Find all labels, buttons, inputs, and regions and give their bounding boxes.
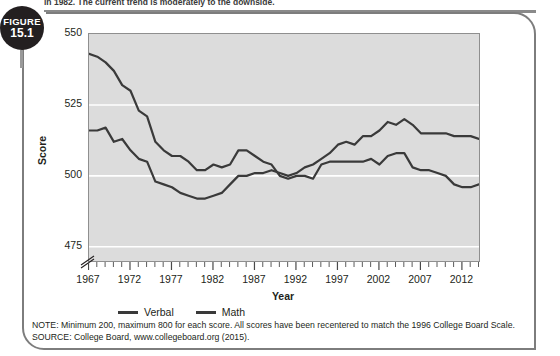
x-axis-tick-label: 1987 [234,273,274,285]
chart-legend: Verbal Math [118,306,245,318]
legend-swatch-math [196,311,216,314]
x-axis-tick-label: 2007 [400,273,440,285]
truncated-body-text: in 1982. The current trend is moderately… [44,0,384,8]
legend-swatch-verbal [118,311,138,314]
note-text: NOTE: Minimum 200, maximum 800 for each … [32,320,502,332]
figure-badge-stem [20,50,23,68]
y-axis-tick-label: 500 [48,169,82,180]
x-axis-tick-label: 1972 [109,273,149,285]
y-axis-tick-label: 550 [48,27,82,38]
figure-badge-number: 15.1 [10,27,33,40]
legend-label-math: Math [222,306,245,318]
figure-badge: FIGURE 15.1 [0,6,44,50]
gridlines [89,34,479,247]
y-axis-label: Score [36,135,48,164]
source-text: SOURCE: College Board, www.collegeboard.… [32,332,502,344]
x-axis-tick-label: 1997 [317,273,357,285]
x-axis-label: Year [88,290,478,302]
x-axis-tick-label: 1982 [192,273,232,285]
y-axis-tick-label: 525 [48,98,82,109]
x-axis-tick-label: 2012 [441,273,481,285]
legend-item-math: Math [196,306,245,318]
x-axis-tick-label: 1977 [151,273,191,285]
plot-area [88,33,480,262]
chart-svg [89,34,479,261]
y-axis-tick-label: 475 [48,240,82,251]
data-lines [89,54,479,199]
x-axis-tick-label: 1967 [68,273,108,285]
x-axis-tick-label: 1992 [275,273,315,285]
x-axis-tick-label: 2002 [358,273,398,285]
legend-label-verbal: Verbal [144,306,174,318]
figure-notes: NOTE: Minimum 200, maximum 800 for each … [32,320,502,343]
legend-item-verbal: Verbal [118,306,174,318]
chart-container: Score 550525500475 196719721977198219871… [22,18,522,318]
